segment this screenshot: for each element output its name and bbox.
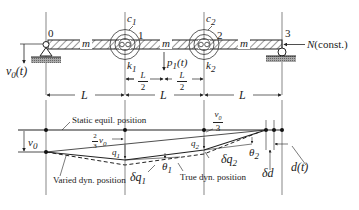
damper-c2-label: c2 — [206, 13, 215, 27]
support-motion-label: v0(t) — [6, 65, 27, 80]
half-span-label-2: L2 — [177, 71, 187, 92]
mass-label: m — [160, 38, 172, 49]
span-label-1: L — [81, 89, 88, 101]
mass-label: m — [238, 38, 250, 49]
two-thirds-label: 23 — [92, 133, 98, 150]
node-2-label: 2 — [217, 30, 223, 41]
damper-c1-label: c1 — [127, 13, 136, 27]
delta-q1-label: δq1 — [130, 171, 146, 186]
span-label-3: L — [239, 89, 246, 101]
true-dyn-label: True dyn. position — [180, 173, 246, 182]
axial-force-label: N(const.) — [307, 39, 348, 50]
static-equil-label: Static equil. position — [72, 116, 146, 125]
q1-label: q1 — [112, 148, 120, 160]
node-3-label: 3 — [285, 28, 291, 39]
half-span-label-1: L2 — [138, 71, 148, 92]
span-label-2: L — [160, 89, 167, 101]
roller-support — [266, 48, 296, 62]
varied-dyn-label: Varied dyn. position — [53, 176, 126, 185]
node-0-label: 0 — [48, 28, 54, 39]
delta-d-label: δd — [262, 167, 274, 179]
node-1-label: 1 — [138, 30, 144, 41]
d-t-label: d(t) — [291, 161, 308, 173]
two-thirds-v0-label: v0 — [99, 136, 107, 148]
spring-k2-label: k2 — [206, 60, 215, 74]
spring-k1-label: k1 — [127, 60, 136, 74]
theta1-label: θ1 — [162, 161, 172, 175]
one-third-v0-label: v03 — [213, 110, 223, 133]
mass-label: m — [80, 38, 92, 49]
delta-q2-label: δq2 — [221, 153, 237, 168]
theta2-label: θ2 — [249, 147, 259, 161]
q2-label: q2 — [191, 139, 199, 151]
v0-label: v0 — [28, 137, 37, 151]
